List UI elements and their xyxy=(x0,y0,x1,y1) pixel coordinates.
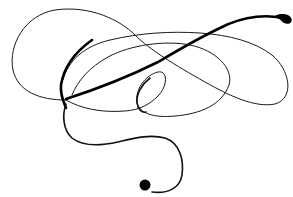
large-left-loop xyxy=(12,9,288,105)
bottom-terminal xyxy=(140,180,151,191)
small-center-loop xyxy=(137,78,150,112)
descending-tail xyxy=(64,104,183,192)
flourish-illustration xyxy=(0,0,293,197)
main-diagonal-stroke xyxy=(66,16,287,99)
flourish-canvas xyxy=(0,0,293,197)
